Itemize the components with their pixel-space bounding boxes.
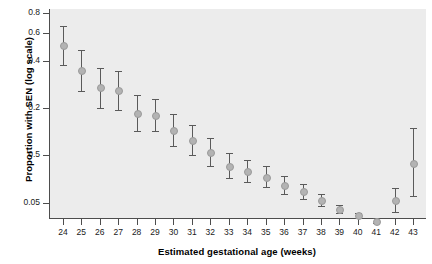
error-bar-cap: [392, 212, 399, 213]
x-axis-tick: [137, 219, 138, 225]
data-point: [134, 110, 142, 118]
y-axis-tick: [43, 203, 49, 204]
error-bar-cap: [226, 178, 233, 179]
error-bar-cap: [152, 99, 159, 100]
error-bar-cap: [115, 71, 122, 72]
error-bar-cap: [97, 108, 104, 109]
y-axis-tick-label: 0.6: [0, 27, 40, 37]
y-axis-tick: [43, 61, 49, 62]
y-axis-tick-label: 0.8: [0, 7, 40, 17]
error-bar-cap: [152, 131, 159, 132]
error-bar-cap: [170, 146, 177, 147]
error-bar-cap: [281, 194, 288, 195]
x-axis-tick: [192, 219, 193, 225]
error-bar-cap: [189, 155, 196, 156]
y-axis-tick-label: 0.5: [0, 149, 40, 159]
x-axis-tick: [63, 219, 64, 225]
x-axis-tick: [100, 219, 101, 225]
data-point: [373, 218, 381, 226]
error-bar-cap: [78, 91, 85, 92]
error-bar-cap: [410, 128, 417, 129]
error-bar-cap: [97, 68, 104, 69]
x-axis-tick: [266, 219, 267, 225]
error-bar-cap: [263, 187, 270, 188]
error-bar-cap: [60, 26, 67, 27]
error-bar-cap: [318, 194, 325, 195]
x-axis-tick: [284, 219, 285, 225]
error-bar-cap: [78, 50, 85, 51]
data-point: [78, 67, 86, 75]
error-bar-cap: [392, 188, 399, 189]
y-axis-tick: [43, 13, 49, 14]
error-bar-cap: [244, 160, 251, 161]
data-point: [281, 182, 289, 190]
x-axis-tick: [173, 219, 174, 225]
x-axis-tick: [395, 219, 396, 225]
error-bar-cap: [226, 153, 233, 154]
data-point: [189, 137, 197, 145]
plot-area: [50, 9, 426, 218]
error-bar-cap: [300, 184, 307, 185]
x-axis-tick: [155, 219, 156, 225]
error-bar-cap: [170, 114, 177, 115]
x-axis-tick: [118, 219, 119, 225]
error-bar-cap: [115, 110, 122, 111]
x-axis-tick: [303, 219, 304, 225]
error-bar-cap: [207, 166, 214, 167]
x-axis-tick: [339, 219, 340, 225]
error-bar-cap: [134, 95, 141, 96]
y-axis-tick: [43, 33, 49, 34]
chart-figure: 0.80.60.40.20.50.05 24252627282930313233…: [0, 0, 432, 264]
x-axis-tick-label: 43: [401, 227, 425, 237]
data-point: [263, 174, 271, 182]
error-bar-cap: [189, 125, 196, 126]
x-axis-tick: [413, 219, 414, 225]
x-axis-tick: [81, 219, 82, 225]
error-bar-cap: [318, 206, 325, 207]
y-axis-title: Proportion with SEN (log scale): [23, 10, 34, 210]
error-bar-cap: [60, 65, 67, 66]
error-bar-cap: [134, 131, 141, 132]
error-bar-cap: [410, 196, 417, 197]
y-axis-tick-label: 0.2: [0, 102, 40, 112]
data-point: [410, 160, 418, 168]
x-axis-line: [49, 218, 426, 219]
y-axis-tick: [43, 108, 49, 109]
data-point: [318, 197, 326, 205]
y-axis-tick: [43, 155, 49, 156]
x-axis-title: Estimated gestational age (weeks): [48, 246, 426, 257]
error-bar-cap: [207, 138, 214, 139]
y-axis-tick-label: 0.4: [0, 55, 40, 65]
y-axis-line: [49, 9, 50, 219]
data-point: [355, 212, 363, 220]
error-bar-cap: [281, 176, 288, 177]
data-point: [300, 188, 308, 196]
y-axis-tick-label: 0.05: [0, 197, 40, 207]
data-point: [244, 168, 252, 176]
x-axis-tick: [321, 219, 322, 225]
error-bar-cap: [244, 182, 251, 183]
x-axis-tick: [229, 219, 230, 225]
x-axis-tick: [247, 219, 248, 225]
x-axis-tick: [210, 219, 211, 225]
error-bar-cap: [263, 166, 270, 167]
error-bar-cap: [300, 199, 307, 200]
data-point: [392, 197, 400, 205]
data-point: [226, 163, 234, 171]
